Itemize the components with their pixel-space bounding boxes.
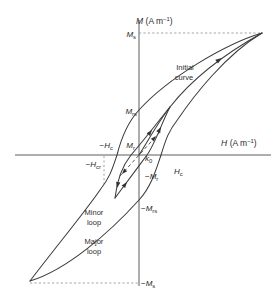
label-hc: Hc [174,167,183,177]
minor-loop-left-down-arrow [115,182,121,189]
label-neg-hcr: −Hcr [86,160,101,170]
label-neg-mrs: −Mrs [141,204,157,214]
minor-loop-label-line2: loop [87,218,101,227]
label-ms: Ms [126,30,136,40]
initial-curve-label-line1: Initial [176,63,194,72]
label-neg-mr: −Mr [145,172,158,182]
hysteresis-plot: M(A m−1) H(A m−1) Ms Mrs −Hc Mr k0 −Hcr … [0,0,280,298]
label-mrs: Mrs [125,107,137,117]
major-loop-label-line1: Major [85,237,104,246]
hysteresis-figure: M(A m−1) H(A m−1) Ms Mrs −Hc Mr k0 −Hcr … [0,0,280,298]
y-axis-label: M(A m−1) [136,16,173,26]
label-neg-ms: −Ms [141,279,155,289]
x-axis-label: H(A m−1) [221,138,257,148]
minor-loop-right-up-arrow [156,126,163,133]
minor-loop-label-line1: Minor [85,208,104,217]
initial-curve-label-line2: curve [175,73,193,82]
major-loop-label-line2: loop [87,247,101,256]
label-k0: k0 [145,154,153,164]
label-neg-hc: −Hc [100,141,113,151]
label-mr: Mr [126,141,135,151]
initial-curve-path [139,33,262,155]
